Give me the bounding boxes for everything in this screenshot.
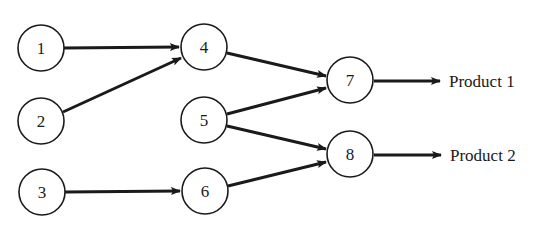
node-5: 5 bbox=[181, 97, 227, 143]
node-4: 4 bbox=[181, 24, 227, 70]
edge-6-to-8 bbox=[228, 162, 326, 186]
node-label: 1 bbox=[37, 39, 46, 58]
product-1-label: Product 1 bbox=[449, 72, 515, 91]
node-label: 2 bbox=[37, 112, 46, 131]
node-3: 3 bbox=[19, 169, 65, 215]
product-2-label: Product 2 bbox=[450, 146, 516, 165]
edge-1-to-4 bbox=[64, 47, 179, 48]
node-2: 2 bbox=[18, 98, 64, 144]
outputs: Product 1 Product 2 bbox=[449, 72, 516, 165]
nodes: 1 2 3 4 5 6 7 8 bbox=[18, 24, 373, 215]
node-label: 3 bbox=[38, 183, 47, 202]
node-label: 7 bbox=[346, 71, 355, 90]
edges bbox=[63, 47, 441, 192]
node-6: 6 bbox=[182, 168, 228, 214]
node-label: 5 bbox=[200, 111, 209, 130]
edge-3-to-6 bbox=[65, 191, 180, 192]
flow-diagram: 1 2 3 4 5 6 7 8 Product bbox=[0, 0, 542, 227]
node-label: 8 bbox=[346, 145, 355, 164]
node-label: 4 bbox=[200, 38, 209, 57]
node-1: 1 bbox=[18, 25, 64, 71]
node-label: 6 bbox=[201, 182, 210, 201]
node-7: 7 bbox=[327, 57, 373, 103]
edge-2-to-4 bbox=[63, 58, 181, 112]
node-8: 8 bbox=[327, 131, 373, 177]
edge-5-to-7 bbox=[227, 88, 326, 114]
edge-5-to-8 bbox=[227, 126, 326, 149]
edge-4-to-7 bbox=[227, 53, 326, 76]
